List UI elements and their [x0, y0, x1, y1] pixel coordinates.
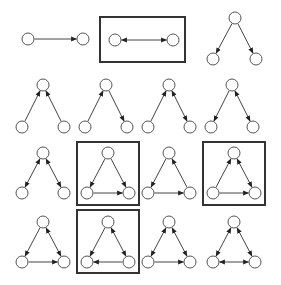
node-circle — [247, 121, 259, 133]
motifs-layer — [16, 12, 265, 273]
directed-edge — [151, 91, 166, 121]
node-circle — [16, 256, 28, 268]
directed-edge — [46, 91, 61, 121]
directed-edge — [216, 24, 232, 54]
node-circle — [163, 79, 175, 91]
motif-m7 — [205, 79, 259, 133]
node-circle — [184, 121, 196, 133]
motif-m3 — [207, 12, 262, 65]
motif-diagram — [0, 0, 281, 285]
node-circle — [37, 147, 49, 159]
node-circle — [100, 79, 112, 91]
node-circle — [163, 216, 175, 228]
directed-edge — [214, 91, 229, 121]
node-circle — [58, 121, 70, 133]
node-circle — [249, 187, 261, 199]
node-circle — [16, 121, 28, 133]
bidirectional-edge — [237, 228, 252, 256]
node-circle — [37, 216, 49, 228]
node-circle — [102, 216, 114, 228]
node-circle — [207, 256, 219, 268]
node-circle — [79, 121, 91, 133]
node-circle — [142, 187, 154, 199]
directed-edge — [172, 159, 187, 187]
node-circle — [250, 53, 262, 65]
motif-m5 — [79, 79, 133, 133]
directed-edge — [109, 91, 124, 121]
node-circle — [207, 53, 219, 65]
motif-m12 — [16, 216, 70, 268]
node-circle — [81, 187, 93, 199]
node-circle — [163, 147, 175, 159]
bidirectional-edge — [216, 228, 231, 256]
motif-m11-highlighted — [203, 142, 265, 205]
motif-m10 — [142, 147, 196, 199]
node-circle — [228, 216, 240, 228]
bidirectional-edge — [111, 228, 126, 256]
node-circle — [37, 79, 49, 91]
node-circle — [205, 121, 217, 133]
node-circle — [226, 79, 238, 91]
directed-edge — [25, 228, 40, 256]
node-circle — [77, 33, 89, 45]
bidirectional-edge — [46, 228, 61, 256]
motif-m6 — [142, 79, 196, 133]
node-circle — [142, 121, 154, 133]
directed-edge — [216, 159, 231, 187]
node-circle — [249, 256, 261, 268]
motif-m8 — [16, 147, 70, 199]
node-circle — [184, 256, 196, 268]
node-circle — [16, 187, 28, 199]
node-circle — [81, 256, 93, 268]
motif-m13-highlighted — [77, 210, 139, 273]
directed-edge — [90, 159, 105, 187]
directed-edge — [111, 159, 126, 187]
motif-m4 — [16, 79, 70, 133]
directed-edge — [238, 24, 253, 53]
directed-edge — [88, 91, 103, 121]
directed-edge — [25, 91, 40, 121]
node-circle — [228, 147, 240, 159]
directed-edge — [151, 159, 166, 187]
bidirectional-edge — [172, 91, 187, 121]
node-circle — [207, 187, 219, 199]
node-circle — [22, 33, 34, 45]
node-circle — [229, 12, 241, 24]
node-circle — [109, 34, 121, 46]
node-circle — [58, 256, 70, 268]
motif-m2-highlighted — [100, 17, 185, 62]
node-circle — [123, 187, 135, 199]
node-circle — [58, 187, 70, 199]
directed-edge — [90, 228, 105, 256]
bidirectional-edge — [151, 228, 166, 256]
motif-m1 — [22, 33, 89, 45]
motif-m15 — [207, 216, 261, 268]
bidirectional-edge — [235, 91, 250, 121]
bidirectional-edge — [172, 228, 187, 256]
bidirectional-edge — [46, 159, 61, 187]
bidirectional-edge — [237, 159, 252, 187]
bidirectional-edge — [25, 159, 40, 187]
motif-m9-highlighted — [77, 142, 139, 205]
node-circle — [184, 187, 196, 199]
node-circle — [142, 256, 154, 268]
node-circle — [121, 121, 133, 133]
motif-m14 — [142, 216, 196, 268]
node-circle — [167, 34, 179, 46]
node-circle — [102, 147, 114, 159]
node-circle — [123, 256, 135, 268]
